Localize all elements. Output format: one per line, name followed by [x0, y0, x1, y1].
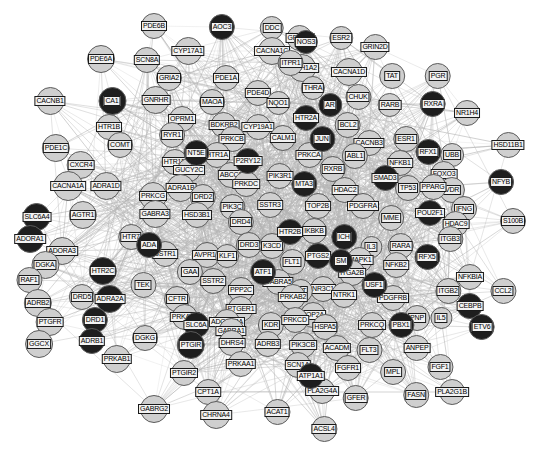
- network-node[interactable]: AOC3: [211, 22, 233, 32]
- network-node[interactable]: GAA: [181, 267, 199, 277]
- network-node[interactable]: TEK: [134, 280, 151, 290]
- network-node[interactable]: CCL2: [492, 286, 513, 296]
- network-node[interactable]: CYP17A1: [171, 46, 204, 56]
- network-node[interactable]: ADRA1D: [90, 181, 121, 191]
- network-node[interactable]: PDE1C: [43, 143, 69, 153]
- network-node[interactable]: ESR2: [330, 33, 352, 43]
- network-node[interactable]: MAOA: [200, 97, 224, 107]
- network-node[interactable]: RAF1: [18, 275, 39, 285]
- network-node[interactable]: CXCR4: [68, 160, 95, 170]
- network-node[interactable]: CFTR: [166, 294, 188, 304]
- network-node[interactable]: NFYB: [490, 177, 512, 187]
- network-node[interactable]: NTRK1: [331, 290, 357, 300]
- network-node[interactable]: S100B: [501, 216, 525, 226]
- network-node[interactable]: ETV6: [472, 322, 493, 332]
- network-node[interactable]: ABL1: [345, 151, 365, 161]
- network-node[interactable]: CEBPB: [457, 301, 484, 311]
- network-node[interactable]: DRD2: [192, 192, 214, 202]
- network-node[interactable]: CHRNA4: [200, 410, 232, 420]
- network-node[interactable]: CA1: [103, 96, 120, 106]
- network-node[interactable]: CHUK: [346, 92, 369, 102]
- network-node[interactable]: CPT1A: [195, 387, 221, 397]
- network-node[interactable]: NR1H4: [454, 108, 480, 118]
- network-node[interactable]: PTGFR: [37, 317, 64, 327]
- network-node[interactable]: JUN: [313, 134, 330, 144]
- network-node[interactable]: IKBKB: [302, 226, 326, 236]
- network-node[interactable]: KLF1: [217, 251, 237, 261]
- network-node[interactable]: IL5: [434, 313, 447, 323]
- network-node[interactable]: FLT1: [282, 257, 301, 267]
- network-node[interactable]: HSD11B1: [491, 140, 524, 150]
- network-node[interactable]: ANPEP: [404, 343, 431, 353]
- network-node[interactable]: GABRA3: [139, 209, 170, 219]
- network-node[interactable]: TAT: [384, 71, 400, 81]
- network-node[interactable]: GRIA2: [157, 73, 181, 83]
- network-node[interactable]: PPP2C: [228, 285, 254, 295]
- network-node[interactable]: CACNA1A: [50, 181, 86, 191]
- network-node[interactable]: PIK3CB: [289, 340, 317, 350]
- network-node[interactable]: CACNA1D: [331, 67, 367, 77]
- network-node[interactable]: CALM1: [270, 133, 296, 143]
- network-node[interactable]: ADRB1: [79, 336, 105, 346]
- network-node[interactable]: CACNB1: [34, 96, 65, 106]
- network-node[interactable]: HTR2A: [293, 113, 319, 123]
- network-node[interactable]: DRD3: [238, 240, 260, 250]
- network-node[interactable]: GNRHR: [142, 95, 171, 105]
- network-node[interactable]: MME: [381, 213, 401, 223]
- network-node[interactable]: ITGB3: [438, 234, 461, 244]
- network-node[interactable]: HTR1B: [96, 122, 122, 132]
- network-node[interactable]: POU2F1: [415, 208, 445, 218]
- network-node[interactable]: ADA: [140, 240, 158, 250]
- network-node[interactable]: HSPA5: [312, 322, 337, 332]
- network-node[interactable]: SSTR2: [200, 276, 226, 286]
- network-node[interactable]: RYR1: [161, 130, 183, 140]
- network-node[interactable]: DDC: [263, 23, 282, 33]
- network-node[interactable]: PRKDC: [232, 179, 260, 189]
- network-node[interactable]: PDE6B: [141, 21, 167, 31]
- network-node[interactable]: MPL: [384, 367, 402, 377]
- network-node[interactable]: DGKA: [33, 260, 56, 270]
- network-node[interactable]: AR: [323, 100, 336, 110]
- network-node[interactable]: PDGFRA: [347, 201, 379, 211]
- network-node[interactable]: SMAD3: [371, 173, 398, 183]
- network-node[interactable]: UBB: [443, 150, 461, 160]
- network-node[interactable]: COMT: [108, 140, 132, 150]
- network-node[interactable]: HTR2C: [90, 266, 116, 276]
- network-node[interactable]: PPARG: [420, 182, 447, 192]
- network-node[interactable]: RFX5: [416, 252, 437, 262]
- network-node[interactable]: THRA: [302, 83, 324, 93]
- network-node[interactable]: ACAT1: [264, 407, 289, 417]
- network-node[interactable]: PDE1A: [213, 73, 239, 83]
- network-node[interactable]: GGCX: [27, 339, 51, 349]
- network-node[interactable]: PTGIR: [179, 340, 203, 350]
- network-node[interactable]: TP53: [398, 183, 418, 193]
- network-graph-canvas[interactable]: PDE6BDDCGRIN2BESR2GRIN2DPDE6ASCN8ACYP17A…: [0, 0, 545, 468]
- network-node[interactable]: KDR: [262, 320, 280, 330]
- network-node[interactable]: GRIN2D: [360, 42, 389, 52]
- network-node[interactable]: NT5E: [185, 148, 206, 158]
- network-node[interactable]: SLC6A4: [23, 212, 52, 222]
- network-node[interactable]: PTGIR2: [170, 368, 198, 378]
- network-node[interactable]: DHRS4: [219, 338, 246, 348]
- network-node[interactable]: NQO1: [266, 98, 289, 108]
- network-node[interactable]: HTR2B: [277, 227, 303, 237]
- network-node[interactable]: CYP19A1: [241, 122, 274, 132]
- network-node[interactable]: ADRA2A: [95, 294, 126, 304]
- network-node[interactable]: PRKAB2: [278, 292, 308, 302]
- network-node[interactable]: USF1: [363, 280, 384, 290]
- network-node[interactable]: ITGB2: [436, 286, 459, 296]
- network-node[interactable]: PLA2G1B: [435, 387, 469, 397]
- network-node[interactable]: FGFR1: [335, 363, 361, 373]
- network-node[interactable]: RXRA: [422, 99, 445, 109]
- network-node[interactable]: ADRB3: [255, 339, 281, 349]
- network-node[interactable]: ADORA1: [14, 234, 46, 244]
- network-node[interactable]: RARA: [390, 241, 413, 251]
- network-node[interactable]: FLT3: [359, 345, 378, 355]
- network-node[interactable]: PTGS2: [305, 251, 331, 261]
- network-node[interactable]: PRKAB1: [102, 354, 132, 364]
- network-node[interactable]: DRD5: [71, 292, 93, 302]
- network-node[interactable]: GABRG2: [138, 404, 170, 414]
- network-node[interactable]: PRKAA1: [226, 359, 256, 369]
- network-node[interactable]: PIK3R1: [267, 171, 294, 181]
- network-node[interactable]: PRKCD: [281, 315, 309, 325]
